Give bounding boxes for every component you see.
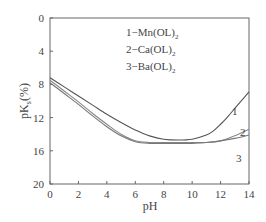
curve-label-1: 1 <box>232 105 238 117</box>
curve-label-2: 2 <box>240 126 246 138</box>
x-tick-label: 10 <box>187 188 199 200</box>
y-tick-label: 16 <box>33 145 45 157</box>
legend: 1−Mn(OL)22−Ca(OL)23−Ba(OL)2 <box>126 26 179 75</box>
y-axis-label: pKs(%) <box>17 83 33 119</box>
series-line-1 <box>50 78 249 140</box>
chart: 02468101214 048121620 123 1−Mn(OL)22−Ca(… <box>0 0 266 222</box>
x-tick-label: 12 <box>215 188 226 200</box>
legend-entry-2: 2−Ca(OL)2 <box>126 43 176 58</box>
x-tick-label: 0 <box>47 188 53 200</box>
y-tick-label: 8 <box>39 78 45 90</box>
x-tick-label: 8 <box>161 188 167 200</box>
series-group: 123 <box>50 78 249 164</box>
x-axis-label: pH <box>143 199 158 213</box>
y-tick-label: 0 <box>39 12 45 24</box>
line-chart: 02468101214 048121620 123 1−Mn(OL)22−Ca(… <box>0 0 266 222</box>
x-tick-label: 14 <box>244 188 256 200</box>
svg-text:pKs(%): pKs(%) <box>17 83 33 119</box>
series-line-3 <box>50 83 249 144</box>
series-line-2 <box>50 80 249 142</box>
y-tick-label: 20 <box>33 178 45 190</box>
x-tick-label: 2 <box>76 188 82 200</box>
y-tick-label: 4 <box>39 45 45 57</box>
curve-label-3: 3 <box>236 152 242 164</box>
x-tick-label: 4 <box>104 188 110 200</box>
legend-entry-1: 1−Mn(OL)2 <box>126 26 179 41</box>
legend-entry-3: 3−Ba(OL)2 <box>126 60 176 75</box>
x-tick-label: 6 <box>133 188 139 200</box>
y-tick-label: 12 <box>33 112 44 124</box>
